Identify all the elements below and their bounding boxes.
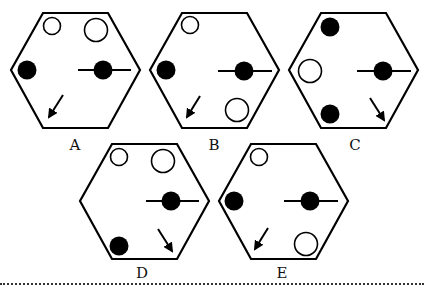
option-c-label: C [349, 138, 360, 153]
black-dot-on-line [162, 192, 181, 211]
dotted-divider [0, 283, 424, 285]
option-e-figure[interactable] [219, 144, 348, 259]
option-b-figure[interactable] [150, 13, 279, 128]
black-circle [157, 61, 176, 80]
option-b-label: B [208, 138, 219, 153]
small-white-circle [44, 18, 61, 35]
black-dot-on-line [94, 61, 113, 80]
black-circle [321, 105, 340, 124]
arrow-down-right-icon [370, 98, 384, 120]
black-dot-on-line [301, 192, 320, 211]
option-d-figure[interactable] [80, 144, 209, 259]
black-circle [110, 237, 129, 256]
large-white-circle [152, 150, 175, 173]
option-a-figure[interactable] [11, 13, 140, 128]
black-circle [321, 18, 340, 37]
large-white-circle [226, 99, 249, 122]
option-e-label: E [277, 266, 288, 281]
arrow-down-left-icon [255, 228, 268, 249]
large-white-circle [85, 19, 108, 42]
arrow-down-left-icon [49, 95, 63, 117]
option-a-label: A [70, 138, 81, 153]
black-circle [225, 192, 244, 211]
small-white-circle [251, 149, 268, 166]
option-c-figure[interactable] [289, 13, 418, 128]
small-white-circle [111, 149, 128, 166]
option-d-label: D [136, 266, 148, 281]
arrow-down-right-icon [158, 229, 172, 251]
large-white-circle [295, 233, 318, 256]
black-dot-on-line [235, 62, 254, 81]
black-circle [18, 61, 37, 80]
black-dot-on-line [374, 62, 393, 81]
large-white-circle [299, 60, 322, 83]
arrow-down-left-icon [187, 96, 200, 117]
small-white-circle [182, 17, 199, 34]
